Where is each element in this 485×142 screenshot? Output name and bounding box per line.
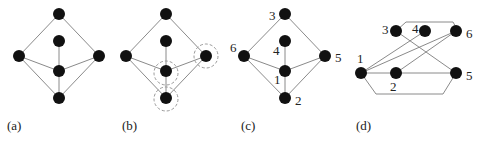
graph-node — [279, 8, 291, 20]
node-label: 6 — [230, 40, 237, 55]
edge — [59, 56, 99, 98]
graph-node — [279, 92, 291, 104]
graph-node — [355, 67, 367, 79]
edge — [19, 56, 59, 71]
graph-node — [160, 8, 172, 20]
edge — [361, 31, 425, 73]
graph-node — [53, 35, 65, 47]
node-label: 4 — [412, 21, 419, 36]
panel-caption: (d) — [356, 118, 371, 133]
graph-node — [390, 25, 402, 37]
graph-node — [450, 67, 462, 79]
panel-caption: (b) — [122, 118, 137, 133]
edge — [244, 56, 285, 71]
node-label: 2 — [390, 79, 397, 94]
graph-node — [53, 65, 65, 77]
graph-node — [200, 50, 212, 62]
edge — [126, 56, 166, 71]
node-label: 6 — [466, 26, 473, 41]
edge — [166, 56, 206, 71]
graph-node — [238, 50, 250, 62]
edge — [19, 56, 59, 98]
node-label: 3 — [269, 8, 276, 23]
panel-c: 3 4 6 5 1 2 (c) — [230, 8, 342, 133]
graph-node — [390, 67, 402, 79]
graph-node — [120, 50, 132, 62]
node-label: 1 — [357, 51, 364, 66]
graph-node — [160, 92, 172, 104]
panel-b: (b) — [120, 8, 218, 133]
node-label: 5 — [466, 68, 473, 83]
node-label: 5 — [335, 50, 342, 65]
graph-node — [53, 8, 65, 20]
edge — [361, 31, 456, 73]
panel-a: (a) — [7, 8, 105, 133]
panel-d: 3 4 6 1 2 5 (d) — [355, 21, 473, 133]
node-label: 2 — [295, 93, 302, 108]
edge — [59, 14, 99, 56]
node-label: 3 — [382, 22, 389, 37]
edge — [285, 56, 325, 71]
panel-caption: (a) — [7, 118, 21, 133]
graph-node — [160, 65, 172, 77]
edge — [285, 56, 325, 98]
graph-node — [93, 50, 105, 62]
panel-caption: (c) — [241, 118, 255, 133]
node-label: 4 — [273, 43, 280, 58]
node-label: 1 — [274, 72, 281, 87]
graph-node — [450, 25, 462, 37]
edge — [126, 14, 166, 56]
graph-node — [279, 35, 291, 47]
graph-node — [13, 50, 25, 62]
graph-node — [160, 35, 172, 47]
graph-node — [419, 25, 431, 37]
graph-node — [53, 92, 65, 104]
edge — [361, 73, 456, 94]
edge — [59, 56, 99, 71]
graph-figure: (a) (b) 3 4 — [0, 0, 485, 142]
graph-node — [279, 65, 291, 77]
edge — [285, 14, 325, 56]
edge — [19, 14, 59, 56]
edge — [166, 14, 206, 56]
graph-node — [319, 50, 331, 62]
